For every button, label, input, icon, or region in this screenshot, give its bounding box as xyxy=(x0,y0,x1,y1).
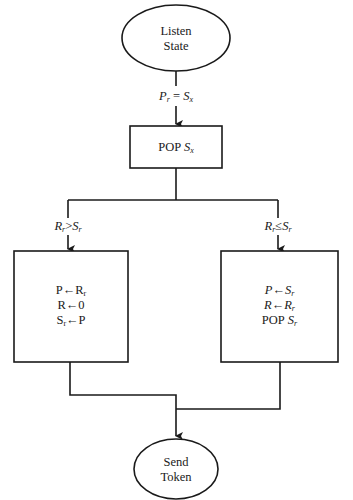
start-label-line-2: State xyxy=(126,39,226,54)
pop-var-sub: x xyxy=(190,146,194,155)
flowchart-canvas xyxy=(0,0,353,500)
rb2-arrow: ← xyxy=(272,298,285,312)
lb2-lhs: R xyxy=(57,298,65,312)
lb1-lhs: P xyxy=(56,283,63,297)
condition-pr-eq-sx: Pr = Sx xyxy=(136,89,216,104)
lb3-arrow: ← xyxy=(66,313,79,327)
rb2-lhs: R xyxy=(264,298,272,312)
pop-sx-label: POP Sx xyxy=(130,140,222,155)
cond-left-lhs: R xyxy=(54,219,62,233)
start-label-line-1: Listen xyxy=(126,24,226,39)
right-box-line-1: P←Sr xyxy=(221,283,338,298)
merge-left-line xyxy=(70,362,176,436)
lb3-rhs: P xyxy=(79,313,86,327)
cond-right-lhs: R xyxy=(264,219,272,233)
rb1-rhs-sub: r xyxy=(291,289,294,298)
right-box-line-3: POP Sr xyxy=(221,313,338,328)
end-label-line-1: Send xyxy=(126,455,226,470)
right-box-text: P←Sr R←Rr POP Sr xyxy=(221,283,338,328)
lb1-rhs-sub: r xyxy=(84,289,87,298)
cond-right-rhs-sub: r xyxy=(288,225,291,234)
rb1-arrow: ← xyxy=(272,283,285,297)
left-box-line-1: P←Rr xyxy=(14,283,128,298)
start-label: Listen State xyxy=(126,24,226,54)
end-label: Send Token xyxy=(126,455,226,485)
merge-right-line xyxy=(176,362,280,409)
condition-rr-gt-sr: Rr>Sr xyxy=(38,219,98,234)
left-box-line-2: R←0 xyxy=(14,298,128,313)
left-box-text: P←Rr R←0 Sr←P xyxy=(14,283,128,328)
end-label-line-2: Token xyxy=(126,470,226,485)
cond-rhs-sub: x xyxy=(189,95,193,104)
lb1-rhs: R xyxy=(75,283,83,297)
rb3-rhs-sub: r xyxy=(294,319,297,328)
pop-keyword: POP xyxy=(158,140,180,154)
cond-op: = xyxy=(173,89,180,103)
lb2-arrow: ← xyxy=(66,298,79,312)
left-box-line-3: Sr←P xyxy=(14,313,128,328)
rb3-prefix: POP xyxy=(262,313,285,327)
rb2-rhs-sub: r xyxy=(292,304,295,313)
rb2-rhs: R xyxy=(284,298,292,312)
condition-rr-le-sr: Rr≤Sr xyxy=(248,219,308,234)
right-box-line-2: R←Rr xyxy=(221,298,338,313)
lb1-arrow: ← xyxy=(63,283,76,297)
cond-lhs: P xyxy=(159,89,167,103)
cond-left-rhs-sub: r xyxy=(78,225,81,234)
lb2-rhs: 0 xyxy=(78,298,84,312)
